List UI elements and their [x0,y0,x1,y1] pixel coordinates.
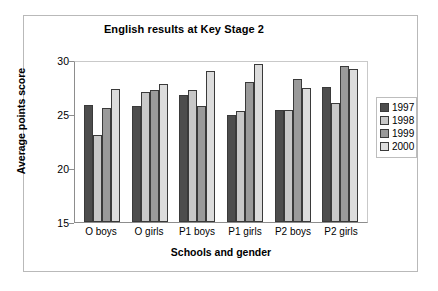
bar[interactable] [284,110,293,222]
bar[interactable] [349,69,358,222]
bar[interactable] [84,105,93,222]
bar[interactable] [132,106,141,222]
plot-area [74,61,368,223]
legend-swatch-icon [380,129,389,138]
legend-swatch-icon [380,103,389,112]
bar[interactable] [150,90,159,222]
bar-group [316,62,364,222]
y-tick-label: 30 [45,56,69,66]
legend-item[interactable]: 1999 [380,127,413,140]
bar[interactable] [102,108,111,222]
chart-legend: 1997199819992000 [376,97,417,158]
bar[interactable] [254,64,263,222]
chart-figure: English results at Key Stage 2 Average p… [23,15,418,272]
bar[interactable] [293,79,302,222]
y-tick-label: 15 [45,218,69,228]
bar[interactable] [245,82,254,222]
bar-group [269,62,317,222]
legend-label: 1998 [392,116,414,126]
bar-group [78,62,126,222]
bar[interactable] [331,103,340,222]
bar[interactable] [179,95,188,222]
y-axis-title: Average points score [15,56,29,186]
bar[interactable] [111,89,120,222]
bar[interactable] [141,92,150,222]
legend-swatch-icon [380,142,389,151]
y-tick-mark [69,223,74,224]
x-tick-label: P1 boys [173,226,221,237]
x-tick-label: P1 girls [221,226,269,237]
bar[interactable] [197,106,206,222]
bar[interactable] [340,66,349,222]
y-tick-label: 20 [45,164,69,174]
bar[interactable] [93,135,102,222]
legend-item[interactable]: 1998 [380,114,413,127]
legend-label: 1999 [392,129,414,139]
bar[interactable] [159,84,168,222]
legend-swatch-icon [380,116,389,125]
x-tick-label: P2 boys [269,226,317,237]
bar[interactable] [322,87,331,222]
legend-label: 1997 [392,103,414,113]
x-tick-label: O girls [125,226,173,237]
bar[interactable] [275,110,284,222]
bar[interactable] [188,90,197,222]
x-tick-label: P2 girls [317,226,365,237]
bar-group [126,62,174,222]
bar[interactable] [227,115,236,222]
bar[interactable] [302,88,311,222]
bar[interactable] [206,71,215,222]
bar-group [221,62,269,222]
bar[interactable] [236,111,245,222]
bar-group [173,62,221,222]
x-axis-tick-labels: O boysO girlsP1 boysP1 girlsP2 boysP2 gi… [74,226,368,237]
x-tick-label: O boys [77,226,125,237]
x-axis-title: Schools and gender [74,246,368,258]
legend-label: 2000 [392,142,414,152]
chart-title: English results at Key Stage 2 [24,23,344,35]
legend-item[interactable]: 1997 [380,101,413,114]
y-tick-label: 25 [45,110,69,120]
legend-item[interactable]: 2000 [380,140,413,153]
bars-layer [75,62,367,222]
